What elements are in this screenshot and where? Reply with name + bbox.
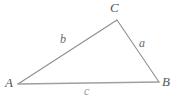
vertex-label-b: B bbox=[162, 75, 170, 88]
triangle-figure: A B C a b c bbox=[0, 0, 173, 103]
vertex-label-a: A bbox=[5, 76, 13, 89]
side-a-line bbox=[117, 20, 159, 82]
side-b-line bbox=[18, 20, 117, 84]
vertex-label-c: C bbox=[110, 1, 119, 14]
side-label-a: a bbox=[139, 37, 145, 49]
side-label-b: b bbox=[60, 33, 66, 45]
side-label-c: c bbox=[84, 85, 89, 97]
